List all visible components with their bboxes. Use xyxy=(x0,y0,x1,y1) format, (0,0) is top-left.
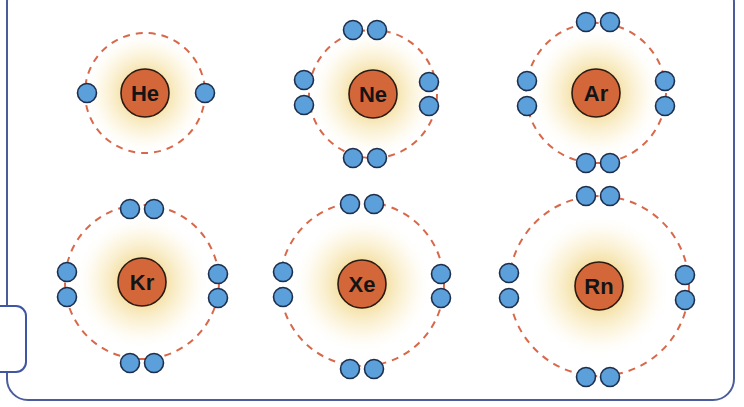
electron xyxy=(121,200,140,219)
electron xyxy=(518,72,537,91)
electron xyxy=(676,266,695,285)
electron xyxy=(601,154,620,173)
electron xyxy=(577,368,596,387)
electron xyxy=(78,84,97,103)
electron xyxy=(432,265,451,284)
electron xyxy=(145,200,164,219)
electron xyxy=(295,71,314,90)
electron xyxy=(344,21,363,40)
atom-he: He xyxy=(78,31,215,155)
electron xyxy=(196,84,215,103)
electron xyxy=(145,354,164,373)
electron xyxy=(577,187,596,206)
electron xyxy=(341,360,360,379)
electron xyxy=(601,368,620,387)
electron xyxy=(577,154,596,173)
electron xyxy=(274,288,293,307)
noble-gas-diagram: HeNeArKrXeRn xyxy=(0,0,744,407)
atom-rn: Rn xyxy=(500,187,695,387)
element-symbol: He xyxy=(131,81,159,106)
electron xyxy=(518,97,537,116)
electron xyxy=(209,265,228,284)
element-symbol: Xe xyxy=(349,272,376,297)
electron xyxy=(121,354,140,373)
electron xyxy=(656,72,675,91)
atom-kr: Kr xyxy=(58,200,228,373)
electron xyxy=(58,263,77,282)
electron xyxy=(601,187,620,206)
electron xyxy=(432,289,451,308)
electron xyxy=(420,73,439,92)
electron xyxy=(58,288,77,307)
electron xyxy=(577,13,596,32)
electron xyxy=(368,149,387,168)
element-symbol: Kr xyxy=(130,270,155,295)
atom-ne: Ne xyxy=(295,21,439,168)
electron xyxy=(500,264,519,283)
element-symbol: Rn xyxy=(584,274,613,299)
electron xyxy=(601,13,620,32)
electron xyxy=(656,97,675,116)
element-symbol: Ne xyxy=(359,82,387,107)
electron xyxy=(676,291,695,310)
electron xyxy=(368,21,387,40)
atom-xe: Xe xyxy=(274,195,451,379)
electron xyxy=(295,96,314,115)
electron xyxy=(420,97,439,116)
electron xyxy=(209,289,228,308)
element-symbol: Ar xyxy=(584,81,609,106)
electron xyxy=(365,195,384,214)
electron xyxy=(500,289,519,308)
electron xyxy=(365,360,384,379)
electron xyxy=(344,149,363,168)
electron xyxy=(274,263,293,282)
atom-ar: Ar xyxy=(518,13,675,173)
electron xyxy=(341,195,360,214)
atoms-layer: HeNeArKrXeRn xyxy=(58,13,695,387)
